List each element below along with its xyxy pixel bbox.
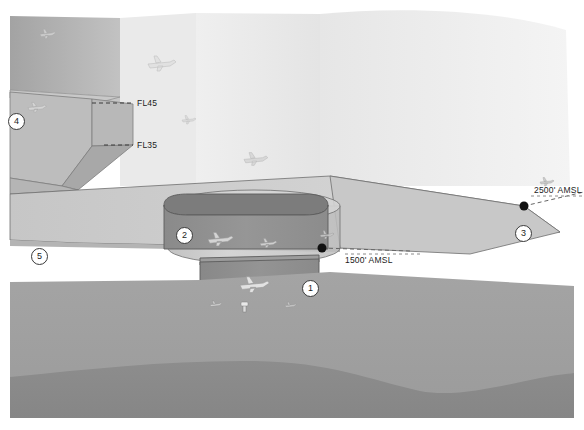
airspace-diagram: FL45 FL35 2500' AMSL 1500' AMSL 1 2 3 4 … xyxy=(0,0,584,430)
upper-airspace-volumes xyxy=(120,10,570,186)
left-block-upper-face xyxy=(10,16,120,97)
label-fl35: FL35 xyxy=(137,140,157,150)
callout-3: 3 xyxy=(515,225,532,242)
floor-slab-right-wing xyxy=(330,176,560,254)
callout-5: 5 xyxy=(31,248,48,265)
left-shelf xyxy=(10,92,133,194)
airspace-block-column xyxy=(120,13,196,186)
marker-1500ft-node xyxy=(318,244,327,253)
airspace-block-right xyxy=(320,10,570,186)
label-fl45: FL45 xyxy=(137,98,157,108)
inner-box-top xyxy=(164,194,328,215)
callout-4: 4 xyxy=(8,113,25,130)
label-1500-amsl: 1500' AMSL xyxy=(345,255,393,265)
terrain xyxy=(10,272,574,418)
callout-2: 2 xyxy=(176,227,193,244)
marker-2500ft-node xyxy=(520,202,529,211)
shelf-inner-face xyxy=(92,99,133,146)
callout-1: 1 xyxy=(302,280,319,297)
label-2500-amsl: 2500' AMSL xyxy=(534,185,582,195)
diagram-canvas xyxy=(0,0,584,430)
